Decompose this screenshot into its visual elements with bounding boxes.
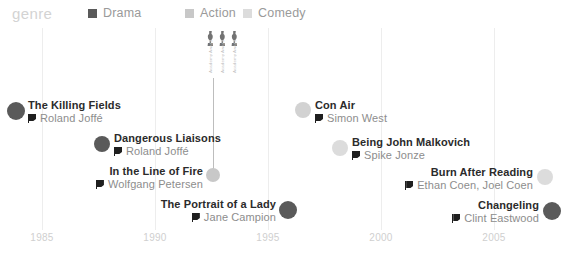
award-item[interactable]: Academy Award (206, 31, 215, 73)
film-director-name: Spike Jonze (364, 149, 425, 162)
director-flag-icon (452, 214, 460, 223)
award-icon-row: Academy AwardAcademy AwardAcademy Award (206, 31, 239, 73)
legend-title: genre (12, 5, 52, 22)
legend-item-comedy[interactable]: Comedy (243, 6, 306, 20)
film-dot-marker[interactable] (543, 202, 561, 220)
film-title: Con Air (315, 99, 387, 112)
film-label[interactable]: The Killing FieldsRoland Joffé (28, 99, 121, 125)
legend: genre DramaActionComedy (0, 0, 570, 28)
director-flag-icon (315, 114, 323, 123)
film-title: Changeling (0, 199, 539, 212)
legend-swatch-icon (88, 9, 97, 18)
director-flag-icon (405, 181, 413, 190)
axis-tick-label: 2000 (369, 232, 392, 243)
film-director-row: Ethan Coen, Joel Coen (0, 179, 533, 192)
legend-item-label: Comedy (258, 6, 306, 20)
legend-item-label: Action (200, 6, 236, 20)
film-title: Burn After Reading (0, 166, 533, 179)
film-director-name: Clint Eastwood (464, 212, 539, 225)
film-director-row: Simon West (315, 112, 387, 125)
film-director-name: Simon West (327, 112, 387, 125)
director-flag-icon (28, 114, 36, 123)
film-director-name: Ethan Coen, Joel Coen (417, 179, 533, 192)
film-dot-marker[interactable] (7, 102, 25, 120)
film-dot-marker[interactable] (332, 140, 348, 156)
legend-item-label: Drama (103, 6, 142, 20)
film-director-row: Roland Joffé (114, 145, 221, 158)
legend-item-drama[interactable]: Drama (88, 6, 142, 20)
film-label[interactable]: Dangerous LiaisonsRoland Joffé (114, 132, 221, 158)
award-caption: Academy Award (232, 47, 237, 73)
award-caption: Academy Award (220, 47, 225, 73)
film-title: Being John Malkovich (352, 136, 470, 149)
film-dot-marker[interactable] (295, 102, 311, 118)
film-director-name: Roland Joffé (126, 145, 189, 158)
film-label[interactable]: ChangelingClint Eastwood (0, 199, 539, 225)
award-caption: Academy Award (208, 47, 213, 73)
director-flag-icon (114, 147, 122, 156)
director-flag-icon (352, 151, 360, 160)
legend-swatch-icon (185, 9, 194, 18)
film-label[interactable]: Con AirSimon West (315, 99, 387, 125)
film-director-row: Roland Joffé (28, 112, 121, 125)
axis-tick-label: 1995 (256, 232, 279, 243)
axis-tick-label: 1990 (143, 232, 166, 243)
film-title: The Killing Fields (28, 99, 121, 112)
film-dot-marker[interactable] (94, 136, 110, 152)
axis-tick-label: 2005 (482, 232, 505, 243)
award-item[interactable]: Academy Award (230, 31, 239, 73)
award-connector-line (213, 78, 214, 175)
film-label[interactable]: Burn After ReadingEthan Coen, Joel Coen (0, 166, 533, 192)
film-director-name: Roland Joffé (40, 112, 103, 125)
award-item[interactable]: Academy Award (218, 31, 227, 73)
film-dot-marker[interactable] (537, 169, 553, 185)
axis-tick-label: 1985 (30, 232, 53, 243)
film-director-row: Spike Jonze (352, 149, 470, 162)
timeline-chart: genre DramaActionComedy 1985199019952000… (0, 0, 570, 263)
film-label[interactable]: Being John MalkovichSpike Jonze (352, 136, 470, 162)
film-title: Dangerous Liaisons (114, 132, 221, 145)
film-director-row: Clint Eastwood (0, 212, 539, 225)
legend-swatch-icon (243, 9, 252, 18)
legend-item-action[interactable]: Action (185, 6, 236, 20)
